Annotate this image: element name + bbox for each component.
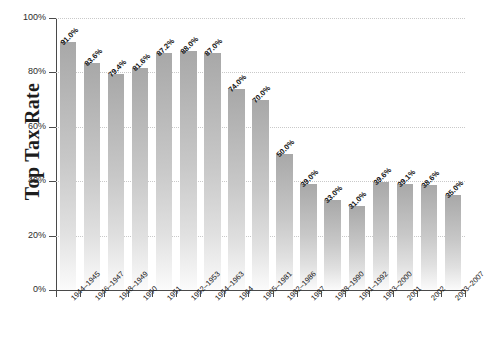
- x-axis-tick-mark: [321, 290, 322, 297]
- bar: [445, 195, 461, 290]
- bar: [60, 42, 76, 290]
- y-axis-tick-mark: [49, 290, 56, 291]
- y-axis-tick-mark: [49, 181, 56, 182]
- x-axis-tick-mark: [80, 290, 81, 297]
- bar-series: [56, 18, 465, 290]
- plot-area: [56, 18, 465, 290]
- y-axis-tick-label: 100%: [12, 12, 46, 22]
- x-axis-tick-mark: [248, 290, 249, 297]
- x-axis-tick-mark: [297, 290, 298, 297]
- bar: [132, 68, 148, 290]
- x-axis-tick-mark: [369, 290, 370, 297]
- bar: [324, 200, 340, 290]
- y-axis-tick-label: 80%: [12, 66, 46, 76]
- x-axis-tick-mark: [345, 290, 346, 297]
- x-axis-tick-labels: 1944–19451946–19471948–1949195019511952–…: [56, 296, 466, 337]
- bar: [252, 100, 268, 290]
- bar: [84, 63, 100, 290]
- x-axis-tick-mark: [200, 290, 201, 297]
- bar: [108, 74, 124, 290]
- x-axis-tick-mark: [224, 290, 225, 297]
- y-axis-tick-label: 60%: [12, 121, 46, 131]
- x-axis-tick-mark: [104, 290, 105, 297]
- bar: [180, 51, 196, 290]
- y-axis-tick-label: 0%: [12, 284, 46, 294]
- y-axis-tick-mark: [49, 18, 56, 19]
- bar: [204, 53, 220, 290]
- bar: [156, 53, 172, 290]
- x-axis-tick-mark: [417, 290, 418, 297]
- x-axis-tick-mark: [441, 290, 442, 297]
- y-axis-tick-label: 40%: [12, 175, 46, 185]
- x-axis-tick-mark: [56, 290, 57, 297]
- y-axis-tick-labels: 0%20%40%60%80%100%: [12, 0, 46, 337]
- x-axis-tick-mark: [273, 290, 274, 297]
- bar: [421, 185, 437, 290]
- y-axis-tick-label: 20%: [12, 230, 46, 240]
- x-axis-line: [56, 290, 466, 291]
- x-axis-tick-mark: [176, 290, 177, 297]
- y-axis-tick-mark: [49, 236, 56, 237]
- y-axis-tick-mark: [49, 72, 56, 73]
- bar: [276, 154, 292, 290]
- bar: [228, 89, 244, 290]
- x-axis-tick-mark: [128, 290, 129, 297]
- x-axis-tick-mark: [393, 290, 394, 297]
- x-axis-tick-mark: [152, 290, 153, 297]
- x-axis-tick-mark: [465, 290, 466, 297]
- y-axis-tick-mark: [49, 127, 56, 128]
